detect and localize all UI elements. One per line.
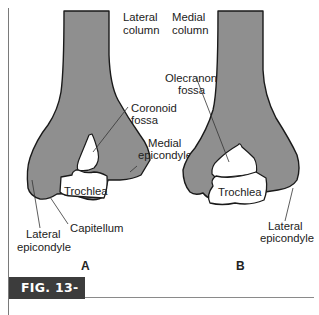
label-medial-epicondyle-1: Medial bbox=[148, 137, 181, 149]
label-trochlea-b: Trochlea bbox=[218, 186, 262, 198]
label-lateral-column-1: Lateral bbox=[123, 11, 158, 23]
panel-b-bone bbox=[183, 11, 299, 205]
label-medial-column-2: column bbox=[172, 24, 208, 36]
figure-caption: FIG. 13-3 bbox=[9, 277, 85, 299]
label-lateral-epicondyle-b-1: Lateral bbox=[268, 220, 303, 232]
humerus-diagram: Lateral column Coronoid fossa Medial epi… bbox=[0, 0, 319, 315]
label-coronoid-fossa-1: Coronoid bbox=[131, 102, 177, 114]
label-coronoid-fossa-2: fossa bbox=[131, 114, 159, 126]
label-olecranon-fossa-1: Olecranon bbox=[165, 72, 217, 84]
label-lateral-epicondyle-a-1: Lateral bbox=[26, 228, 61, 240]
figure-13-3: Lateral column Coronoid fossa Medial epi… bbox=[0, 0, 319, 315]
leader-lateral-epicondyle-b bbox=[285, 188, 293, 221]
label-trochlea-a: Trochlea bbox=[64, 185, 108, 197]
label-lateral-epicondyle-a-2: epicondyle bbox=[17, 241, 71, 253]
label-medial-epicondyle-2: epicondyle bbox=[138, 149, 192, 161]
label-lateral-column-2: column bbox=[123, 24, 159, 36]
label-lateral-epicondyle-b-2: epicondyle bbox=[260, 232, 314, 244]
leader-capitellum bbox=[50, 197, 68, 224]
label-medial-column-1: Medial bbox=[172, 11, 205, 23]
label-olecranon-fossa-2: fossa bbox=[178, 84, 206, 96]
left-margin-rule bbox=[8, 8, 9, 315]
label-capitellum: Capitellum bbox=[70, 222, 123, 234]
panel-a-letter: A bbox=[81, 259, 90, 273]
caption-rule bbox=[85, 297, 314, 298]
panel-b-letter: B bbox=[236, 259, 245, 273]
